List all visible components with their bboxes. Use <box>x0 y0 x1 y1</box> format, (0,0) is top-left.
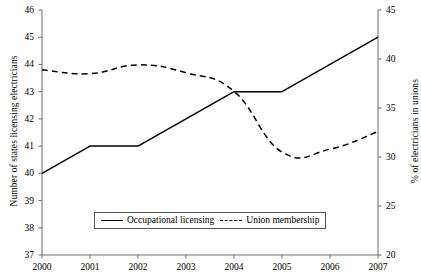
legend-swatch-dashed-icon <box>220 220 242 221</box>
legend-label-union-membership: Union membership <box>246 215 319 225</box>
legend-label-occupational-licensing: Occupational licensing <box>127 215 214 225</box>
legend-swatch-solid-icon <box>101 220 123 221</box>
legend-item-union-membership: Union membership <box>220 215 319 225</box>
series-lines <box>42 37 378 173</box>
line-chart: Number of states licensing electricians … <box>0 0 421 278</box>
legend-item-occupational-licensing: Occupational licensing <box>101 215 214 225</box>
chart-legend: Occupational licensing Union membership <box>94 212 326 229</box>
series-line-occupational-licensing <box>42 37 378 173</box>
plot-area <box>0 0 421 278</box>
series-line-union-membership <box>42 65 378 158</box>
